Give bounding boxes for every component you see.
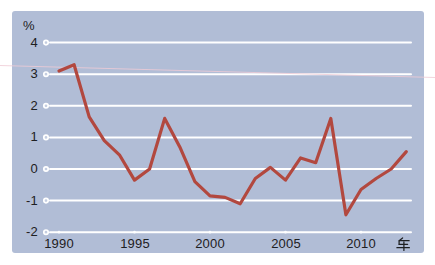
y-axis-label: 2 (6, 98, 38, 114)
y-axis-unit-label: % (16, 18, 42, 34)
y-axis-label: 3 (6, 66, 38, 82)
x-axis-label: 2005 (261, 236, 311, 252)
y-axis-label: -1 (6, 193, 38, 209)
x-axis-label: 1995 (110, 236, 160, 252)
y-axis-label: 0 (6, 161, 38, 177)
figure: % 4 3 2 1 0 -1 -2 1990 1995 2000 2005 20… (0, 0, 435, 265)
x-axis-year-label (396, 237, 410, 251)
y-axis-label: 1 (6, 129, 38, 145)
y-axis-label: 4 (6, 35, 38, 51)
x-axis-label: 2010 (336, 236, 386, 252)
x-axis-label: 2000 (185, 236, 235, 252)
x-axis-label: 1990 (34, 236, 84, 252)
plot-area (12, 11, 424, 253)
